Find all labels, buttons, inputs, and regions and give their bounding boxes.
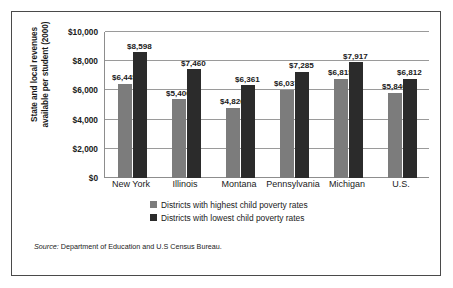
y-axis-tick-labels: $0$2,000$4,000$6,000$8,000$10,000: [42, 32, 100, 178]
y-axis-tick-label: $8,000: [73, 56, 98, 66]
bar[interactable]: $7,460: [187, 69, 201, 178]
source-label: Source:: [34, 242, 59, 251]
x-axis-tick-label: U.S.: [392, 179, 410, 189]
bar-groups: $6,445$8,598$5,400$7,460$4,826$6,361$6,0…: [105, 32, 429, 178]
bar[interactable]: $7,285: [295, 72, 309, 178]
source-note: Source: Department of Education and U.S …: [34, 242, 222, 251]
y-axis-tick-label: $6,000: [73, 85, 98, 95]
x-axis-tick-label: Pennsylvania: [266, 179, 320, 189]
x-axis-tick-label: Illinois: [172, 179, 197, 189]
bar-value-label: $7,460: [181, 59, 206, 68]
bar[interactable]: $6,037: [280, 90, 294, 178]
legend-item[interactable]: Districts with highest child poverty rat…: [12, 198, 442, 211]
source-text: Department of Education and U.S Census B…: [61, 242, 222, 251]
bar-group: $5,400$7,460: [165, 32, 208, 178]
legend-swatch-icon: [150, 201, 157, 208]
y-axis-tick-label: $0: [89, 173, 98, 183]
bar[interactable]: $5,846: [388, 93, 402, 178]
chart-legend: Districts with highest child poverty rat…: [12, 198, 442, 224]
y-axis-tick-label: $2,000: [73, 144, 98, 154]
bar[interactable]: $7,917: [349, 62, 363, 178]
bar-group: $6,815$7,917: [327, 32, 370, 178]
bar-group: $5,846$6,812: [381, 32, 424, 178]
bar[interactable]: $6,445: [118, 84, 132, 178]
bar[interactable]: $4,826: [226, 108, 240, 178]
legend-swatch-icon: [150, 214, 157, 221]
bar-group: $4,826$6,361: [219, 32, 262, 178]
y-axis-tick-label: $4,000: [73, 115, 98, 125]
chart-figure: State and local revenues available per s…: [11, 11, 441, 276]
plot-area: $6,445$8,598$5,400$7,460$4,826$6,361$6,0…: [104, 32, 429, 178]
plot-wrapper: State and local revenues available per s…: [12, 12, 442, 184]
bar-value-label: $7,917: [343, 52, 368, 61]
bar[interactable]: $8,598: [133, 52, 147, 178]
bar[interactable]: $6,815: [334, 79, 348, 178]
x-axis-tick-label: New York: [112, 179, 150, 189]
y-axis-title-line1: State and local revenues: [29, 0, 40, 150]
bar-group: $6,037$7,285: [273, 32, 316, 178]
bar-value-label: $6,361: [235, 75, 260, 84]
bar-value-label: $6,812: [397, 68, 422, 77]
x-axis-tick-label: Michigan: [329, 179, 365, 189]
bar-value-label: $8,598: [127, 42, 152, 51]
bar-value-label: $7,285: [289, 61, 314, 70]
legend-label: Districts with highest child poverty rat…: [161, 200, 308, 210]
legend-label: Districts with lowest child poverty rate…: [161, 213, 304, 223]
legend-item[interactable]: Districts with lowest child poverty rate…: [12, 211, 442, 224]
bar[interactable]: $6,812: [403, 79, 417, 178]
bar[interactable]: $6,361: [241, 85, 255, 178]
bar[interactable]: $5,400: [172, 99, 186, 178]
x-axis-tick-label: Montana: [221, 179, 256, 189]
bar-group: $6,445$8,598: [111, 32, 154, 178]
y-axis-tick-label: $10,000: [68, 27, 98, 37]
x-axis-tick-labels: New YorkIllinoisMontanaPennsylvaniaMichi…: [104, 179, 428, 193]
